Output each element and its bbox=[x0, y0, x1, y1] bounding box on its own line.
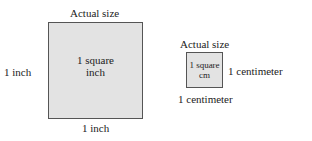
inch-side-left: 1 inch bbox=[4, 66, 31, 78]
inch-area-line2: inch bbox=[86, 66, 105, 78]
cm-title: Actual size bbox=[180, 38, 229, 50]
square-cm-box: 1 square cm bbox=[186, 52, 223, 88]
square-inch-box: 1 square inch bbox=[48, 22, 143, 119]
cm-area-line1: 1 square bbox=[189, 60, 219, 70]
cm-side-right: 1 centimeter bbox=[228, 65, 283, 77]
inch-side-bottom: 1 inch bbox=[82, 122, 109, 134]
cm-area-line2: cm bbox=[199, 70, 210, 80]
inch-title: Actual size bbox=[70, 7, 119, 19]
cm-side-bottom: 1 centimeter bbox=[178, 93, 233, 105]
inch-area-line1: 1 square bbox=[77, 54, 114, 66]
